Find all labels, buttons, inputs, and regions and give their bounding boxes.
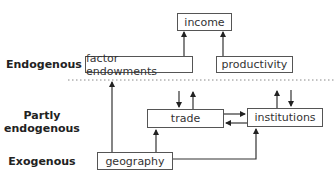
row-label-endogenous: Endogenous (6, 58, 76, 71)
node-geography: geography (97, 152, 173, 170)
node-trade: trade (147, 109, 224, 128)
node-institutions: institutions (247, 108, 323, 127)
row-label-exogenous: Exogenous (4, 155, 80, 168)
row-label-partly-line1: Partly (4, 109, 80, 122)
node-income: income (177, 13, 232, 31)
row-label-partly-line2: endogenous (4, 122, 80, 135)
row-label-partly-endogenous: Partly endogenous (4, 109, 80, 135)
node-productivity: productivity (216, 56, 293, 73)
node-factor-endowments: factor endowments (85, 56, 193, 73)
